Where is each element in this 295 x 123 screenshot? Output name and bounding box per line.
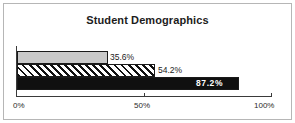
bar-2-value-label: 54.2% bbox=[158, 65, 182, 75]
bar-1-value-label: 35.6% bbox=[110, 52, 134, 62]
x-tick-100 bbox=[271, 93, 272, 97]
bar-1 bbox=[17, 51, 108, 64]
plot-area: 35.6% 54.2% 87.2% 0% 50% 100% bbox=[0, 0, 295, 123]
chart-screenshot: Student Demographics 35.6% 54.2% 87.2% 0… bbox=[0, 0, 295, 123]
bar-3-value-label: 87.2% bbox=[196, 78, 223, 88]
x-axis-label-100: 100% bbox=[254, 101, 274, 110]
x-axis-label-50: 50% bbox=[134, 101, 150, 110]
bar-2 bbox=[17, 64, 155, 77]
x-tick-0 bbox=[16, 93, 17, 97]
x-axis-label-0: 0% bbox=[13, 101, 25, 110]
x-tick-50 bbox=[144, 93, 145, 97]
